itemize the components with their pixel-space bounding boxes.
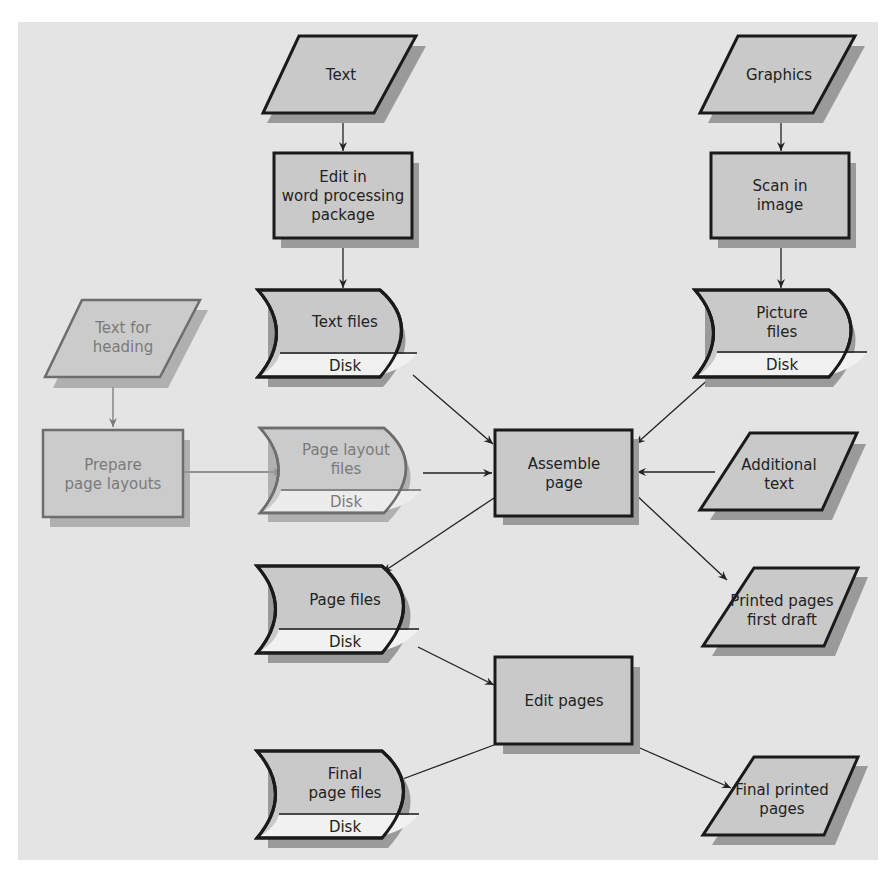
node-label: Edit pages	[524, 692, 603, 710]
node-label-line-2: word processing	[282, 187, 404, 205]
node-label-line-2: text	[764, 475, 794, 493]
node-label: Page files	[309, 591, 381, 609]
node-edit-word-processing: Edit in word processing package	[274, 153, 419, 248]
storage-medium-label: Disk	[330, 493, 363, 511]
node-label-line-1: Page layout	[302, 441, 390, 459]
node-label: Graphics	[746, 66, 812, 84]
node-label: Text	[325, 66, 356, 84]
node-prepare-layouts: Prepare page layouts	[43, 430, 190, 527]
storage-medium-label: Disk	[329, 633, 362, 651]
node-text-files: Text files Disk	[258, 290, 417, 387]
node-label-line-3: package	[311, 206, 374, 224]
storage-medium-label: Disk	[329, 818, 362, 836]
node-label-line-2: image	[757, 196, 804, 214]
node-label-line-2: files	[331, 460, 362, 478]
node-label-line-1: Text for	[94, 319, 152, 337]
node-label-line-2: files	[767, 323, 798, 341]
node-label-line-1: Edit in	[319, 168, 367, 186]
node-label-line-1: Picture	[756, 304, 808, 322]
node-label: Text files	[311, 313, 378, 331]
node-picture-files: Picture files Disk	[695, 290, 867, 387]
storage-medium-label: Disk	[329, 357, 362, 375]
node-label-line-2: heading	[93, 338, 154, 356]
node-layout-files: Page layout files Disk	[260, 428, 421, 522]
storage-medium-label: Disk	[766, 356, 799, 374]
node-label-line-1: Printed pages	[730, 592, 833, 610]
node-label-line-2: pages	[759, 800, 804, 818]
node-label-line-1: Assemble	[528, 455, 601, 473]
node-label-line-2: page files	[309, 784, 382, 802]
node-label-line-2: page layouts	[65, 475, 162, 493]
flowchart-canvas: Text Edit in word processing package Tex…	[0, 0, 887, 873]
node-assemble-page: Assemble page	[495, 430, 639, 525]
node-label-line-1: Final	[328, 765, 363, 783]
node-final-files: Final page files Disk	[257, 751, 419, 848]
node-scan-image: Scan in image	[711, 153, 856, 248]
node-label-line-1: Additional	[741, 456, 816, 474]
node-label-line-1: Final printed	[735, 781, 828, 799]
process-shape	[43, 430, 183, 517]
node-label-line-1: Scan in	[753, 177, 808, 195]
node-label-line-2: first draft	[747, 611, 817, 629]
node-edit-pages: Edit pages	[495, 657, 640, 754]
node-label-line-1: Prepare	[84, 456, 142, 474]
node-page-files: Page files Disk	[257, 566, 419, 663]
node-label-line-2: page	[545, 474, 582, 492]
